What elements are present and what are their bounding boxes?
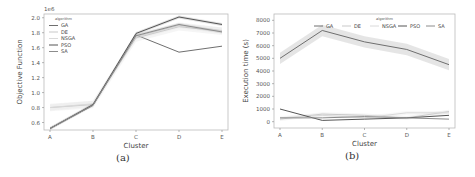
caption-a: (a) [116,152,130,163]
x-tick-label: D [405,132,409,138]
x-tick-label: B [320,132,324,138]
legend-entry: DE [354,23,361,29]
y-tick-label: 1.2 [31,75,40,81]
y-tick-label: 1.0 [31,90,40,96]
x-tick-label: A [278,132,282,138]
y-tick-label: 1.4 [31,60,40,66]
x-tick-label: E [447,132,451,138]
x-tick-label: B [91,134,95,140]
y-tick-label: 3000 [256,81,270,87]
legend-entry: PSO [410,23,420,29]
x-axis-label: Cluster [352,140,377,148]
y-tick-label: 1.8 [31,30,40,36]
x-tick-label: E [220,134,224,140]
y-tick-label: 0 [267,119,271,125]
series-line-pso [50,17,222,129]
x-tick-label: C [134,134,138,140]
y-tick-label: 4000 [256,68,270,74]
y-tick-label: 8000 [256,17,270,23]
legend-entry: GA [61,22,69,28]
y-tick-label: 0.6 [31,120,40,126]
y-tick-label: 2000 [256,93,270,99]
y-tick-label: 6000 [256,43,270,49]
legend-title: algorithm [376,17,393,21]
legend-title: algorithm [55,17,72,21]
chart-b: 010002000300040005000600070008000ABCDECl… [238,0,475,150]
legend-entry: NSGA [382,23,397,29]
y-offset-label: 1e6 [44,6,55,12]
y-axis-label: Execution time (s) [242,39,250,103]
x-tick-label: D [177,134,181,140]
legend-entry: NSGA [61,35,76,41]
legend-entry: SA [438,23,445,29]
x-tick-label: A [48,134,52,140]
x-tick-label: C [363,132,367,138]
y-axis-label: Objective Function [16,39,24,104]
caption-b: (b) [345,150,359,161]
y-tick-label: 1000 [256,106,270,112]
chart-a: 0.60.81.01.21.41.61.82.0ABCDEClusterObje… [0,0,238,150]
y-tick-label: 2.0 [31,15,40,21]
x-axis-label: Cluster [124,142,149,150]
legend-entry: PSO [61,42,71,48]
legend-entry: SA [61,48,68,54]
y-tick-label: 7000 [256,30,270,36]
y-tick-label: 0.8 [31,105,40,111]
y-tick-label: 1.6 [31,45,40,51]
legend-entry: DE [61,29,68,35]
legend-entry: GA [326,23,334,29]
chart-a-plot: 0.60.81.01.21.41.61.82.0ABCDEClusterObje… [0,0,238,150]
chart-b-plot: 010002000300040005000600070008000ABCDECl… [238,0,475,150]
y-tick-label: 5000 [256,55,270,61]
